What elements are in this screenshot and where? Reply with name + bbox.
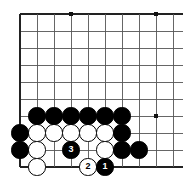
stone-black — [11, 141, 28, 158]
stone-black — [28, 107, 45, 124]
stone-black — [130, 141, 147, 158]
star-point — [154, 114, 158, 118]
stone-white — [79, 124, 96, 141]
star-point — [69, 12, 73, 16]
go-diagram: 321 — [0, 0, 183, 186]
stone-black — [45, 107, 62, 124]
stone-white — [96, 141, 113, 158]
stone-black — [11, 124, 28, 141]
stone-black — [79, 107, 96, 124]
star-point — [154, 12, 158, 16]
stone-black — [113, 124, 130, 141]
stone-white — [45, 124, 62, 141]
stone-black — [62, 107, 79, 124]
move-number-label: 3 — [68, 145, 73, 154]
stone-white — [28, 124, 45, 141]
move-number-label: 2 — [85, 162, 90, 171]
stone-white — [96, 124, 113, 141]
stone-black — [113, 107, 130, 124]
stone-white — [28, 141, 45, 158]
move-number-label: 1 — [102, 162, 107, 171]
move-stone-2: 2 — [79, 158, 96, 175]
stone-white — [28, 158, 45, 175]
move-stone-3: 3 — [62, 141, 79, 158]
stone-white — [62, 124, 79, 141]
stone-black — [96, 107, 113, 124]
move-stone-1: 1 — [96, 158, 113, 175]
stone-black — [113, 141, 130, 158]
